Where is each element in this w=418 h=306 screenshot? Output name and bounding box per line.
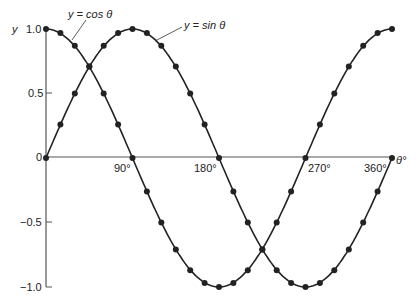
sin-data-point — [187, 91, 193, 97]
cos-data-point — [245, 267, 251, 273]
sin-data-point — [288, 280, 294, 286]
cos-data-point — [375, 30, 381, 36]
sin-data-point — [216, 155, 222, 161]
x-tick-label-180: 180° — [194, 162, 217, 174]
y-tick-label-neg0.5: −0.5 — [20, 216, 42, 228]
sin-data-point — [72, 91, 78, 97]
sin-data-point — [173, 63, 179, 69]
cos-data-point — [72, 43, 78, 49]
cos-data-point — [57, 30, 63, 36]
sin-data-point — [230, 189, 236, 195]
x-tick-label-90: 90° — [114, 162, 131, 174]
y-tick-label-neg1: −1.0 — [20, 281, 42, 293]
sin-data-point — [115, 30, 121, 36]
cos-data-point — [173, 247, 179, 253]
cos-data-point — [288, 189, 294, 195]
sin-data-point — [375, 189, 381, 195]
cos-data-point — [187, 267, 193, 273]
x-axis-label: θ° — [396, 154, 407, 166]
sin-data-point — [389, 155, 395, 161]
trig-chart: y 1.0 0.5 0 −0.5 −1.0 90° 180° 270° 360°… — [0, 0, 418, 306]
cos-data-point — [303, 155, 309, 161]
sin-data-point — [57, 122, 63, 128]
sin-data-point — [245, 220, 251, 226]
sin-data-point — [43, 155, 49, 161]
sin-data-point — [331, 267, 337, 273]
cos-data-point — [331, 91, 337, 97]
cos-data-point — [130, 155, 136, 161]
cos-leader-line — [72, 20, 86, 40]
cos-data-point — [86, 63, 92, 69]
cos-data-point — [230, 280, 236, 286]
sin-data-point — [303, 284, 309, 290]
sin-data-point — [144, 30, 150, 36]
x-tick-label-360: 360° — [364, 162, 387, 174]
cos-data-point — [144, 189, 150, 195]
cos-data-point — [274, 220, 280, 226]
cos-data-point — [43, 26, 49, 32]
cos-data-point — [202, 280, 208, 286]
y-tick-label-0.5: 0.5 — [28, 87, 43, 99]
y-axis-label: y — [11, 23, 19, 35]
cos-data-point — [259, 247, 265, 253]
y-tick-label-1: 1.0 — [26, 23, 41, 35]
cos-data-point — [158, 220, 164, 226]
cos-data-point — [389, 26, 395, 32]
cos-data-point — [115, 122, 121, 128]
sin-data-point — [202, 122, 208, 128]
sin-data-point — [101, 43, 107, 49]
sin-data-point — [317, 280, 323, 286]
origin-label: 0 — [36, 151, 42, 163]
cos-data-point — [101, 91, 107, 97]
sin-data-point — [130, 26, 136, 32]
sin-curve-label: y = sin θ — [183, 19, 225, 31]
sin-data-point — [346, 247, 352, 253]
cos-data-point — [216, 284, 222, 290]
cos-data-point — [317, 122, 323, 128]
sin-data-point — [274, 267, 280, 273]
sin-data-point — [360, 220, 366, 226]
x-tick-label-270: 270° — [308, 162, 331, 174]
sin-data-point — [158, 43, 164, 49]
sin-leader-line — [155, 27, 182, 41]
cos-data-point — [360, 43, 366, 49]
cos-data-point — [346, 63, 352, 69]
cos-curve-label: y = cos θ — [67, 8, 112, 20]
